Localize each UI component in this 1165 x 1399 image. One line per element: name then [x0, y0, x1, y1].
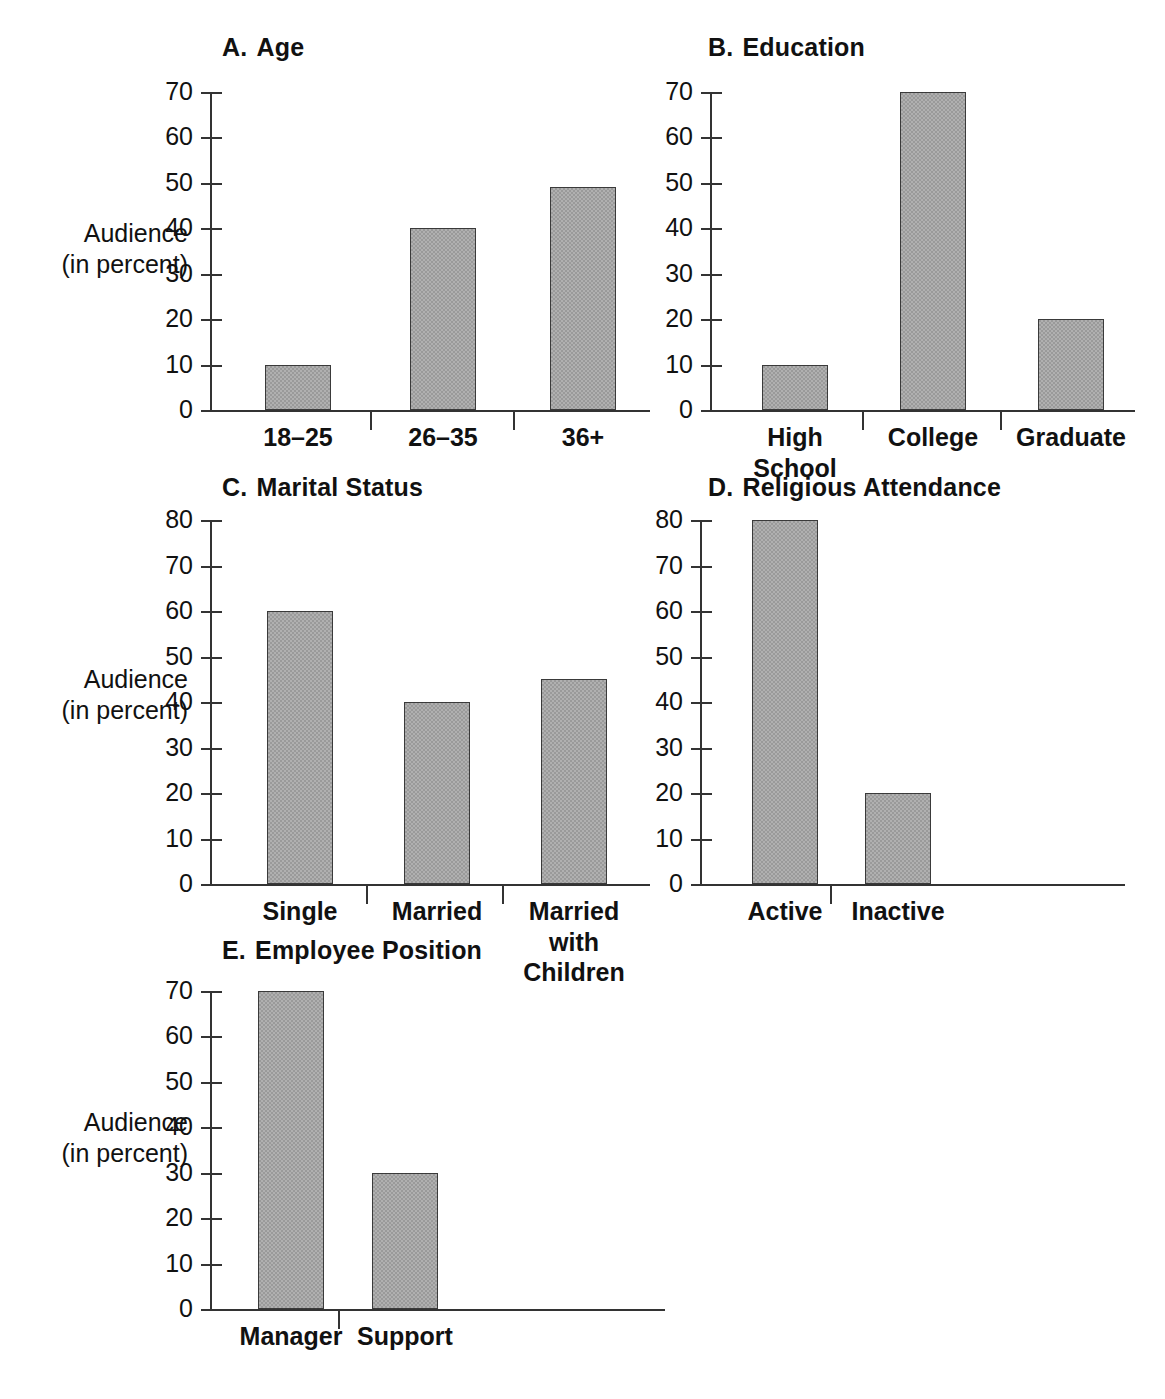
panel-e-ytick-label-30: 30: [133, 1160, 193, 1185]
panel-d-title: D.Religious Attendance: [708, 473, 1001, 502]
panel-e-employee-position: E.Employee Position Audience (in percent…: [0, 0, 700, 1399]
panel-d-bar-active: [752, 520, 818, 884]
panel-e-title-text: Employee Position: [255, 936, 482, 964]
panel-e-ytick-label-50: 50: [133, 1069, 193, 1094]
panel-e-ytick-label-10: 10: [133, 1251, 193, 1276]
panel-e-ytick-50: [201, 1082, 222, 1084]
panel-e-letter: E.: [222, 936, 246, 964]
panel-e-ytick-label-0: 0: [133, 1296, 193, 1321]
panel-d-xlabel-inactive: Inactive: [828, 896, 968, 927]
panel-e-ytick-label-40: 40: [133, 1114, 193, 1139]
panel-e-ytick-20: [201, 1218, 222, 1220]
panel-e-ytick-label-60: 60: [133, 1023, 193, 1048]
panel-e-ytick-70: [201, 991, 222, 993]
panel-e-bar-manager: [258, 991, 324, 1309]
panel-e-xlabel-support: Support: [335, 1321, 475, 1352]
panel-d-x-axis-line: [700, 884, 1125, 886]
panel-e-ytick-0: [201, 1309, 222, 1311]
panel-d-plot-area: 80 70 60 50 40 30 20 10 0 Active Inactiv…: [700, 520, 1125, 884]
panel-d-title-text: Religious Attendance: [742, 473, 1001, 501]
panel-e-ytick-40: [201, 1127, 222, 1129]
panel-d-bar-inactive: [865, 793, 931, 884]
panel-e-ytick-60: [201, 1036, 222, 1038]
panel-e-ytick-10: [201, 1264, 222, 1266]
panel-e-plot-area: 70 60 50 40 30 20 10 0 Manager Support: [210, 991, 665, 1309]
panel-e-ytick-label-20: 20: [133, 1205, 193, 1230]
panel-e-ytick-30: [201, 1173, 222, 1175]
panel-e-bar-support: [372, 1173, 438, 1309]
panel-e-ytick-label-70: 70: [133, 978, 193, 1003]
panel-e-title: E.Employee Position: [222, 936, 482, 965]
panel-e-x-axis-line: [210, 1309, 665, 1311]
panel-d-letter: D.: [708, 473, 733, 501]
